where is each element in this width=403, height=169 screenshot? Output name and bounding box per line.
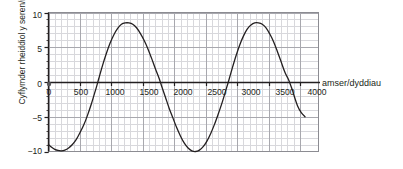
- x-tick-label-2500: 2500: [203, 88, 231, 97]
- y-tick-label-5: 5: [18, 45, 42, 54]
- chart-figure: Cyflymder rheiddiol y seren/m s-1 amser/…: [0, 0, 403, 169]
- x-tick-label-500: 500: [67, 88, 95, 97]
- cropped-text-row: [0, 0, 403, 9]
- origin-marker: [47, 82, 51, 86]
- x-tick-label-2000: 2000: [169, 88, 197, 97]
- x-axis-label: amser/dyddiau: [322, 78, 381, 88]
- y-tick-label-0: 0: [18, 80, 42, 89]
- y-tick-label-neg10: −10: [18, 147, 42, 156]
- x-tick-label-1000: 1000: [101, 88, 129, 97]
- x-tick-label-0: 0: [45, 88, 53, 97]
- x-tick-label-3500: 3500: [271, 88, 299, 97]
- x-tick-label-4000: 4000: [303, 88, 331, 97]
- y-tick-label-10: 10: [18, 11, 42, 20]
- x-tick-label-3000: 3000: [237, 88, 265, 97]
- x-tick-label-1500: 1500: [135, 88, 163, 97]
- y-tick-label-neg5: −5: [18, 114, 42, 123]
